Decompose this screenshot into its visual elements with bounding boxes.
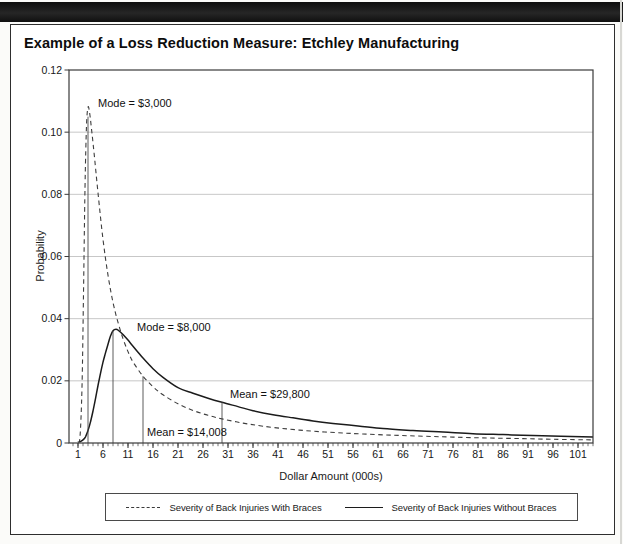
svg-text:101: 101 — [569, 448, 587, 460]
annotation-mean-without-braces: Mean = $29,800 — [230, 388, 310, 400]
annotation-lines — [88, 117, 222, 443]
svg-text:6: 6 — [100, 448, 106, 460]
svg-text:21: 21 — [172, 448, 184, 460]
svg-text:91: 91 — [522, 448, 534, 460]
probability-chart: 00.020.040.060.080.100.12161116212631364… — [0, 0, 623, 544]
x-axis-label: Dollar Amount (000s) — [279, 470, 382, 482]
gridlines — [69, 132, 593, 381]
annotation-mean-with-braces: Mean = $14,008 — [147, 426, 227, 438]
svg-text:26: 26 — [197, 448, 209, 460]
svg-text:0.08: 0.08 — [42, 188, 63, 200]
svg-text:41: 41 — [272, 448, 284, 460]
svg-text:36: 36 — [247, 448, 259, 460]
legend-solid-line-sample — [345, 507, 383, 508]
svg-text:66: 66 — [397, 448, 409, 460]
legend-label-without-braces: Severity of Back Injuries Without Braces — [392, 502, 557, 513]
svg-text:46: 46 — [297, 448, 309, 460]
svg-text:11: 11 — [123, 448, 134, 460]
annotation-mode-with-braces: Mode = $3,000 — [98, 97, 172, 109]
svg-text:61: 61 — [372, 448, 384, 460]
svg-text:0.10: 0.10 — [42, 126, 63, 138]
svg-text:16: 16 — [147, 448, 159, 460]
legend-label-with-braces: Severity of Back Injuries With Braces — [169, 502, 321, 513]
svg-text:86: 86 — [497, 448, 509, 460]
svg-text:0.02: 0.02 — [42, 374, 63, 386]
annotation-mode-without-braces: Mode = $8,000 — [137, 321, 211, 333]
svg-text:51: 51 — [322, 448, 334, 460]
svg-text:71: 71 — [422, 448, 434, 460]
page-edge-shadow — [620, 0, 622, 544]
plot-border-and-ticks — [65, 70, 594, 448]
legend: Severity of Back Injuries With Braces Se… — [105, 493, 578, 521]
svg-text:56: 56 — [347, 448, 359, 460]
svg-text:0.12: 0.12 — [42, 64, 63, 76]
legend-dashed-line-sample — [126, 507, 160, 508]
svg-text:81: 81 — [472, 448, 484, 460]
svg-text:76: 76 — [447, 448, 459, 460]
svg-text:0.04: 0.04 — [42, 312, 63, 324]
svg-text:31: 31 — [222, 448, 234, 460]
distribution-curves — [78, 107, 593, 443]
svg-text:96: 96 — [547, 448, 559, 460]
svg-text:0: 0 — [56, 437, 62, 449]
y-axis-label: Probability — [34, 230, 46, 282]
svg-text:1: 1 — [75, 448, 81, 460]
tick-labels: 00.020.040.060.080.100.12161116212631364… — [42, 64, 587, 461]
